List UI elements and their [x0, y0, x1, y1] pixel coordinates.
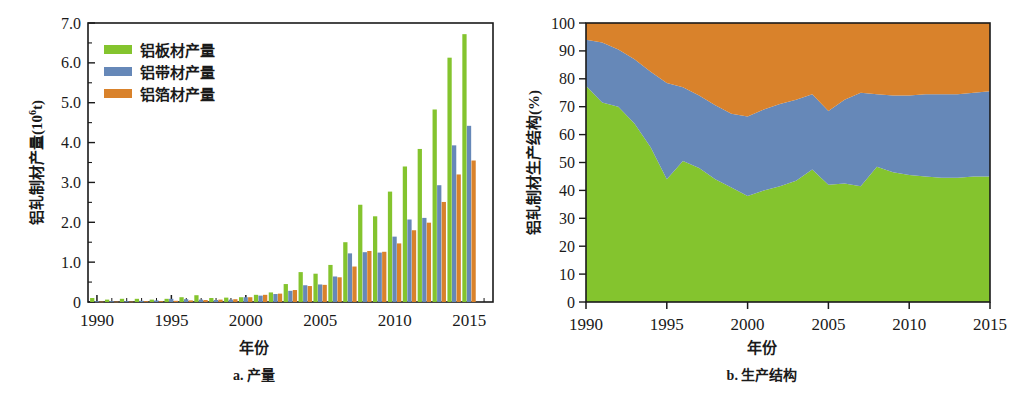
legend-swatch-foil	[104, 89, 132, 98]
legend: 铝板材产量 铝带材产量 铝箔材产量	[104, 38, 215, 104]
bar-strip-2002	[273, 294, 277, 302]
bar-foil-2013	[442, 202, 446, 302]
x-tick-label: 2005	[811, 315, 845, 334]
x-tick-label: 2010	[378, 311, 412, 330]
y-tick-label: 90	[559, 42, 575, 59]
panel-a-caption: a. 产量	[0, 364, 508, 384]
panel-a-x-axis-label: 年份	[0, 336, 508, 357]
bar-strip-1995	[169, 299, 173, 302]
bar-plate-2008	[358, 205, 362, 302]
bar-foil-1993	[144, 301, 148, 302]
bar-plate-1997	[194, 295, 198, 302]
bar-strip-2009	[378, 253, 382, 302]
y-tick-label: 0	[73, 294, 81, 311]
bar-strip-1993	[139, 301, 143, 302]
bar-foil-2000	[248, 297, 252, 302]
y-tick-label: 20	[559, 238, 575, 255]
x-tick-label: 2000	[229, 311, 263, 330]
bar-strip-1999	[229, 300, 233, 302]
bar-foil-2015	[471, 161, 475, 302]
bar-plate-1991	[105, 300, 109, 302]
bar-plate-2015	[462, 34, 466, 302]
bar-plate-1990	[90, 298, 94, 302]
y-tick-label: 1.0	[61, 254, 81, 271]
bar-foil-2014	[457, 174, 461, 302]
y-tick-label: 70	[559, 98, 575, 115]
x-tick-label: 2015	[452, 311, 486, 330]
bar-strip-2000	[244, 297, 248, 302]
panel-b-y-axis-label: 铝轧制材生产结构(%)	[522, 48, 543, 278]
panel-b-structure: 铝轧制材生产结构(%) 0102030405060708090100199019…	[508, 0, 1016, 401]
bar-strip-1996	[184, 299, 188, 302]
bar-plate-1996	[179, 297, 183, 302]
bar-plate-2004	[299, 272, 303, 302]
legend-label-strip: 铝带材产量	[140, 61, 215, 82]
bar-foil-2006	[337, 277, 341, 302]
bar-strip-2008	[363, 252, 367, 302]
bar-foil-2012	[427, 223, 431, 302]
y-tick-label: 6.0	[61, 54, 81, 71]
y-tick-label: 3.0	[61, 174, 81, 191]
y-tick-label: 10	[559, 266, 575, 283]
bar-foil-1990	[99, 302, 103, 303]
y-tick-label: 2.0	[61, 214, 81, 231]
bar-strip-1992	[124, 301, 128, 302]
bar-plate-1995	[165, 299, 169, 302]
bar-strip-2015	[467, 126, 471, 302]
y-axis-label-text: 铝轧制材产量(10	[29, 115, 45, 225]
bar-foil-1991	[114, 302, 118, 303]
bar-strip-2010	[392, 237, 396, 302]
bar-plate-2013	[433, 109, 437, 302]
bar-foil-2009	[382, 252, 386, 302]
bar-strip-2004	[303, 285, 307, 302]
bar-plate-2009	[373, 216, 377, 302]
x-tick-label: 2015	[973, 315, 1007, 334]
bar-foil-1992	[129, 302, 133, 303]
bar-plate-1998	[209, 298, 213, 302]
bar-strip-2007	[348, 253, 352, 302]
bar-strip-1991	[110, 301, 114, 302]
legend-item-foil[interactable]: 铝箔材产量	[104, 82, 215, 104]
legend-label-foil: 铝箔材产量	[140, 83, 215, 104]
bar-plate-2011	[403, 166, 407, 302]
y-axis-label-exponent: 6	[27, 110, 38, 115]
panel-a-y-axis-label: 铝轧制材产量(106t)	[25, 48, 46, 278]
y-tick-label: 7.0	[61, 15, 81, 32]
bar-foil-1994	[159, 301, 163, 302]
bar-foil-1999	[233, 299, 237, 302]
bar-foil-2007	[352, 267, 356, 302]
bar-strip-2013	[437, 185, 441, 302]
x-tick-label: 1995	[154, 311, 188, 330]
y-tick-label: 100	[551, 15, 575, 32]
bar-strip-1997	[199, 300, 203, 302]
bar-plate-2000	[239, 297, 243, 302]
bar-plate-2010	[388, 192, 392, 302]
y-tick-label: 0	[567, 294, 575, 311]
figure-container: 铝轧制材产量(106t) 01.02.03.04.05.06.07.019901…	[0, 0, 1016, 401]
bar-foil-1997	[203, 300, 207, 302]
bar-foil-2008	[367, 251, 371, 302]
bar-strip-2014	[452, 145, 456, 302]
bar-foil-2005	[323, 285, 327, 302]
bar-strip-2006	[333, 276, 337, 302]
area-series-group	[586, 23, 990, 302]
x-tick-label: 2005	[303, 311, 337, 330]
bar-foil-1996	[189, 300, 193, 302]
x-tick-label: 2010	[892, 315, 926, 334]
bar-strip-1998	[214, 300, 218, 302]
bar-plate-1994	[150, 300, 154, 302]
bar-plate-2006	[328, 265, 332, 302]
bar-foil-2004	[308, 286, 312, 302]
y-tick-label: 80	[559, 70, 575, 87]
panel-b-caption: b. 生产结构	[508, 364, 1016, 384]
y-tick-label: 40	[559, 182, 575, 199]
bar-strip-1994	[154, 300, 158, 302]
legend-item-strip[interactable]: 铝带材产量	[104, 60, 215, 82]
bar-plate-1999	[224, 298, 228, 302]
x-tick-label: 1990	[569, 315, 603, 334]
legend-swatch-strip	[104, 67, 132, 76]
bar-strip-1990	[95, 301, 99, 302]
y-axis-label-unit: t)	[29, 100, 45, 110]
bar-strip-2003	[288, 291, 292, 302]
legend-item-plate[interactable]: 铝板材产量	[104, 38, 215, 60]
